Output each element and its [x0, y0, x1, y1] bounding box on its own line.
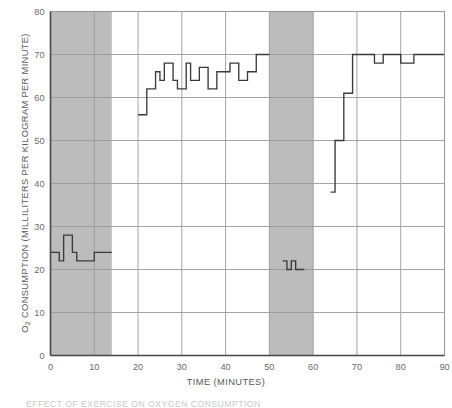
x-tick-label-40: 40	[211, 362, 241, 372]
y-tick-label-60: 60	[19, 93, 45, 103]
y-tick-label-20: 20	[19, 265, 45, 275]
data-trace-steady-state-exercise	[138, 55, 269, 115]
y-tick-label-0: 0	[19, 351, 45, 361]
x-tick-label-10: 10	[79, 362, 109, 372]
figure-caption: EFFECT OF EXERCISE ON OXYGEN CONSUMPTION	[26, 399, 446, 408]
y-tick-label-10: 10	[19, 308, 45, 318]
x-tick-label-60: 60	[298, 362, 328, 372]
y-axis-title-subscript: 2	[24, 321, 31, 325]
figure-container: O2 CONSUMPTION (MILLILITERS PER KILOGRAM…	[0, 0, 452, 408]
y-tick-label-80: 80	[19, 7, 45, 17]
y-tick-label-50: 50	[19, 136, 45, 146]
y-tick-label-30: 30	[19, 222, 45, 232]
x-tick-label-70: 70	[342, 362, 372, 372]
x-tick-label-80: 80	[386, 362, 416, 372]
y-tick-label-40: 40	[19, 179, 45, 189]
x-tick-label-20: 20	[123, 362, 153, 372]
y-axis-title-prefix: O	[20, 325, 30, 333]
data-trace-recovery-ramp	[331, 55, 445, 193]
x-tick-label-0: 0	[36, 362, 66, 372]
x-tick-label-90: 90	[430, 362, 452, 372]
chart-plot-area	[0, 0, 452, 408]
y-axis-title-suffix: CONSUMPTION (MILLILITERS PER KILOGRAM PE…	[20, 33, 30, 321]
x-tick-label-50: 50	[254, 362, 284, 372]
x-axis-title: TIME (MINUTES)	[0, 377, 452, 387]
y-tick-label-70: 70	[19, 50, 45, 60]
x-tick-label-30: 30	[167, 362, 197, 372]
